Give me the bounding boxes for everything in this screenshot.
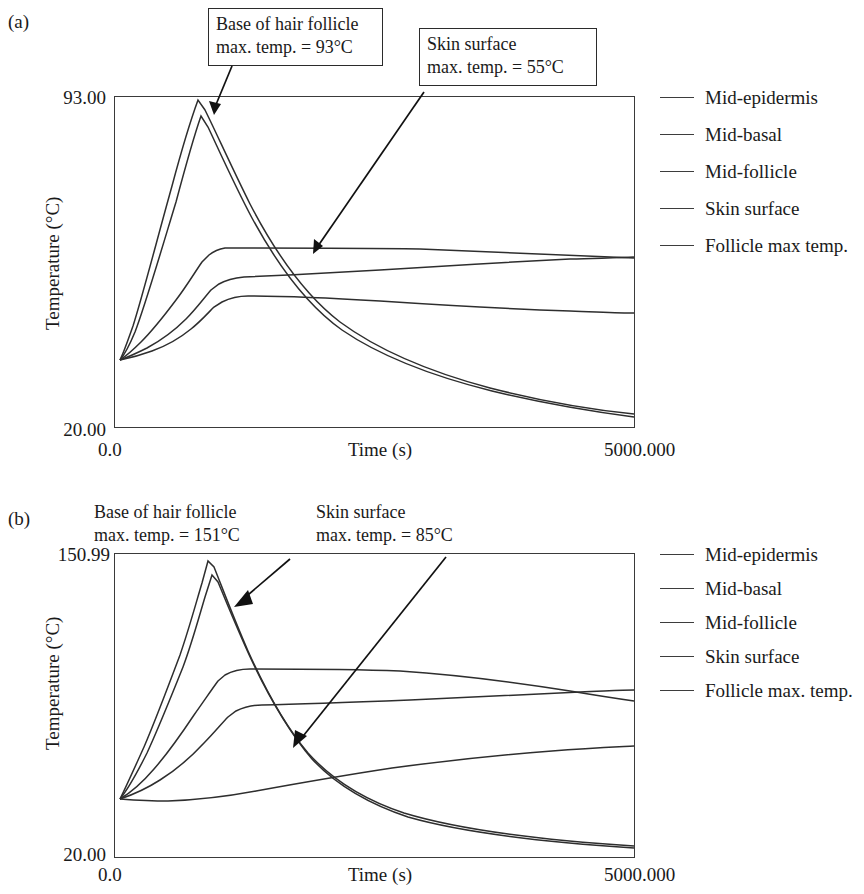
panel-a-legend-item-mid-basal: Mid-basal [660,125,782,144]
panel-b-letter: (b) [8,509,30,528]
panel-b-legend-label-mid-epidermis: Mid-epidermis [705,545,818,564]
panel-b-x-max-label: 5000.000 [604,865,675,884]
figure: (a) Base of hair follicle max. temp. = 9… [0,0,864,894]
panel-b-base-of-hair-follicle-callout: Base of hair follicle max. temp. = 151°C [94,501,240,548]
legend-line-icon [660,171,694,172]
panel-b-plot-area [114,553,635,858]
panel-a-legend-label-mid-follicle: Mid-follicle [705,162,797,181]
panel-a-x-min-label: 0.0 [98,440,122,459]
panel-b-legend-label-skin-surface: Skin surface [705,647,799,666]
panel-b-legend-label-mid-follicle: Mid-follicle [705,613,797,632]
callout-line-1: Skin surface [316,501,453,524]
legend-line-icon [660,134,694,135]
panel-b-legend-item-mid-basal: Mid-basal [660,579,782,598]
panel-b-legend-item-mid-follicle: Mid-follicle [660,613,797,632]
panel-a: (a) Base of hair follicle max. temp. = 9… [0,0,864,495]
panel-a-skin-surface-callout: Skin surface max. temp. = 55°C [419,28,597,86]
callout-line-1: Skin surface [427,33,589,56]
panel-a-legend-item-skin-surface: Skin surface [660,199,799,218]
panel-b-x-axis-title: Time (s) [300,865,460,884]
legend-line-icon [660,588,694,589]
panel-b-legend-item-skin-surface: Skin surface [660,647,799,666]
panel-a-legend-label-mid-epidermis: Mid-epidermis [705,88,818,107]
panel-a-y-max-label: 93.00 [36,88,106,107]
callout-line-1: Base of hair follicle [94,501,240,524]
panel-b-x-min-label: 0.0 [98,865,122,884]
callout-line-2: max. temp. = 151°C [94,524,240,547]
legend-line-icon [660,208,694,209]
panel-b-skin-surface-callout: Skin surface max. temp. = 85°C [316,501,453,548]
panel-b-y-max-label: 150.99 [26,545,110,564]
panel-a-legend-label-follicle-max-temp: Follicle max temp. [705,236,848,255]
legend-line-icon [660,690,694,691]
panel-a-y-min-label: 20.00 [36,420,106,439]
panel-a-legend-label-mid-basal: Mid-basal [705,125,782,144]
panel-a-base-of-hair-follicle-callout: Base of hair follicle max. temp. = 93°C [208,8,383,66]
legend-line-icon [660,554,694,555]
panel-a-legend-item-mid-follicle: Mid-follicle [660,162,797,181]
callout-line-2: max. temp. = 93°C [216,36,375,59]
legend-line-icon [660,97,694,98]
panel-a-x-max-label: 5000.000 [604,440,675,459]
legend-line-icon [660,622,694,623]
panel-b: (b) Base of hair follicle max. temp. = 1… [0,495,864,894]
panel-a-plot-area [114,96,635,428]
panel-b-y-min-label: 20.00 [36,845,106,864]
panel-a-letter: (a) [8,12,29,31]
callout-line-2: max. temp. = 85°C [316,524,453,547]
panel-a-legend-label-skin-surface: Skin surface [705,199,799,218]
panel-a-x-axis-title: Time (s) [300,440,460,459]
panel-b-legend-item-mid-epidermis: Mid-epidermis [660,545,818,564]
panel-a-legend-item-follicle-max-temp: Follicle max temp. [660,236,848,255]
panel-a-legend-item-mid-epidermis: Mid-epidermis [660,88,818,107]
legend-line-icon [660,245,694,246]
panel-b-y-axis-title: Temperature (°C) [42,617,64,750]
legend-line-icon [660,656,694,657]
callout-line-2: max. temp. = 55°C [427,56,589,79]
panel-b-legend-label-follicle-max-temp: Follicle max. temp. [705,681,853,700]
callout-line-1: Base of hair follicle [216,13,375,36]
panel-b-legend-item-follicle-max-temp: Follicle max. temp. [660,681,853,700]
panel-a-y-axis-title: Temperature (°C) [42,197,64,330]
panel-b-legend-label-mid-basal: Mid-basal [705,579,782,598]
